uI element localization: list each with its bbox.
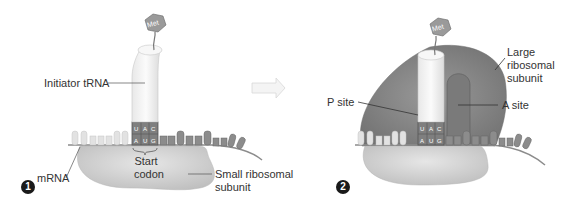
codon-2-base-2: U: [429, 135, 433, 148]
codon-1-base-2: U: [143, 135, 147, 148]
codon-1-base-1: A: [134, 135, 138, 148]
label-mrna: mRNA: [37, 172, 69, 185]
codon-2-base-3: G: [437, 135, 442, 148]
mrna-bases-left: [72, 131, 128, 145]
label-initiator-trna: Initiator tRNA: [44, 77, 109, 90]
label-large-subunit: Large ribosomal subunit: [507, 46, 567, 85]
codon-2-base-1: A: [420, 135, 424, 148]
label-start-codon: Start codon: [134, 155, 158, 181]
initiator-trna: [132, 50, 160, 122]
initiator-trna-p-site: [418, 55, 444, 122]
step-1-marker: 1: [21, 180, 35, 194]
small-ribosomal-subunit-2: [363, 146, 488, 185]
label-small-subunit: Small ribosomal subunit: [215, 168, 295, 194]
step-2-marker: 2: [336, 180, 350, 194]
panel-1: [66, 14, 262, 190]
step-arrow: [252, 78, 285, 98]
codon-1-base-3: G: [151, 135, 156, 148]
label-p-site: P site: [327, 96, 354, 109]
label-a-site: A site: [502, 99, 529, 112]
